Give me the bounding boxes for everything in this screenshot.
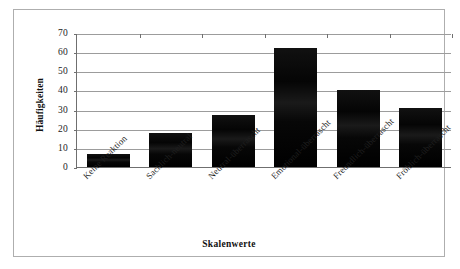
x-axis-tick-mark — [452, 34, 453, 38]
x-axis-tick-mark — [327, 34, 328, 38]
y-axis-tick-mark — [74, 130, 77, 131]
y-axis-tick-mark — [74, 72, 77, 73]
plot-area — [76, 34, 451, 168]
y-axis-tick-label: 0 — [40, 163, 68, 173]
y-axis-tick-mark — [74, 91, 77, 92]
gridline — [77, 149, 451, 150]
y-axis-tick-mark — [74, 53, 77, 54]
y-axis-tick-label: 30 — [40, 106, 68, 116]
y-axis-tick-mark — [74, 111, 77, 112]
y-axis-tick-mark — [74, 168, 77, 169]
gridline — [77, 72, 451, 73]
y-axis-tick-label: 60 — [40, 48, 68, 58]
x-axis-tick-mark — [265, 34, 266, 38]
x-axis-title: Skalenwerte — [14, 239, 444, 249]
x-axis-tick-mark — [202, 34, 203, 38]
y-axis-tick-label: 20 — [40, 125, 68, 135]
y-axis-tick-mark — [74, 34, 77, 35]
gridline — [77, 111, 451, 112]
y-axis-tick-mark — [74, 149, 77, 150]
y-axis-tick-label: 70 — [40, 29, 68, 39]
x-axis-tick-mark — [390, 34, 391, 38]
x-axis-tick-mark — [140, 34, 141, 38]
y-axis-tick-label: 40 — [40, 87, 68, 97]
gridline — [77, 91, 451, 92]
y-axis-tick-label: 50 — [40, 68, 68, 78]
gridline — [77, 130, 451, 131]
figure-frame: Häufigkeiten 706050403020100 Keine Reakt… — [13, 9, 445, 257]
y-axis-tick-label: 10 — [40, 144, 68, 154]
gridline — [77, 53, 451, 54]
